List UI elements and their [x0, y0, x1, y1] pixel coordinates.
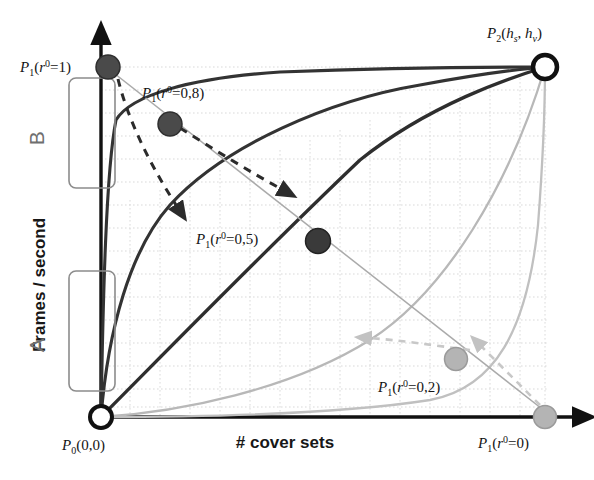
plot-svg: # cover sets Frames / second B A P1(r0=1…: [0, 0, 594, 480]
label-p1-r0-08: P1(r0=0,8): [141, 84, 204, 104]
marker-p1-r0-02[interactable]: [445, 348, 468, 371]
marker-p2[interactable]: [533, 55, 557, 79]
region-label-b: B: [25, 131, 48, 146]
label-p1-r0-1: P1(r0=1): [19, 58, 71, 78]
label-p1-r0-05: P1(r0=0,5): [195, 230, 258, 250]
grid-vertical: [130, 70, 545, 417]
region-bracket-b: [69, 78, 115, 188]
marker-p1-r0-1[interactable]: [96, 55, 120, 79]
marker-p1-r0-05[interactable]: [306, 229, 331, 254]
label-p1-r0-0: P1(r0=0): [477, 434, 529, 454]
label-p2: P2(hs, hv): [486, 25, 542, 44]
arrow-light-2: [480, 345, 540, 405]
y-axis-label: Frames / second: [30, 218, 49, 352]
figure-container: # cover sets Frames / second B A P1(r0=1…: [0, 0, 594, 480]
label-p1-r0-02: P1(r0=0,2): [377, 378, 440, 398]
label-p0: P0(0,0): [61, 437, 105, 456]
marker-p1-r0-08[interactable]: [158, 112, 182, 136]
marker-p0[interactable]: [90, 406, 112, 428]
x-axis-label: # cover sets: [236, 433, 334, 452]
marker-p1-r0-0[interactable]: [534, 406, 557, 429]
region-label-a: A: [25, 338, 48, 353]
region-bracket-a: [69, 271, 115, 391]
